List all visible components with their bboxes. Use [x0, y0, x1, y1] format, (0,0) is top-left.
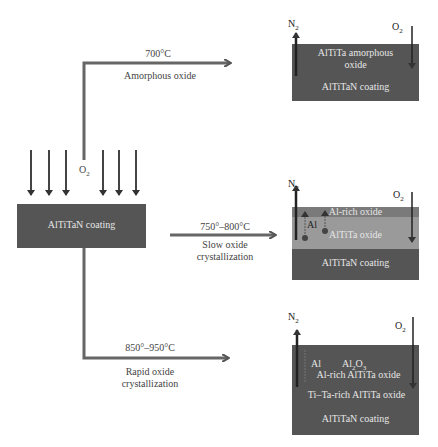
result3-gas-arrows	[0, 0, 438, 447]
result3-n2-label: N2	[288, 311, 299, 325]
result3-o2-label: O2	[395, 320, 406, 334]
